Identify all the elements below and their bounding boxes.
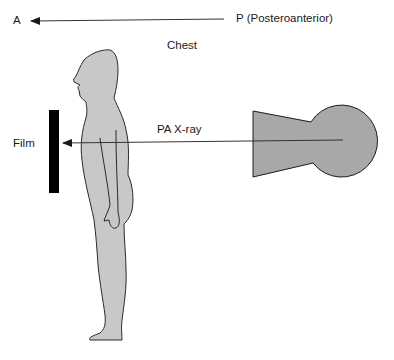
- posterior-label: P (Posteroanterior): [236, 13, 333, 25]
- anterior-label: A: [13, 15, 21, 27]
- diagram-canvas: A P (Posteroanterior) Chest PA X-ray Fil…: [0, 0, 394, 360]
- film-label: Film: [13, 138, 35, 150]
- film-plate: [49, 110, 59, 193]
- chest-label: Chest: [167, 40, 197, 52]
- beam-label: PA X-ray: [157, 124, 202, 136]
- direction-arrow: [31, 19, 224, 21]
- human-figure: [74, 50, 133, 340]
- diagram-graphics: [0, 0, 394, 360]
